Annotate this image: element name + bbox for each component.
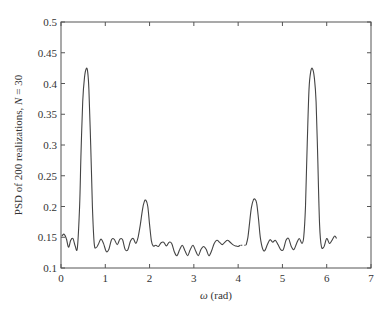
x-tick-label: 3 [191, 272, 197, 284]
x-axis-unit: (rad) [211, 289, 233, 302]
x-tick-label: 5 [280, 272, 286, 284]
x-axis-label: ω (rad) [200, 289, 232, 302]
y-tick-label: 0.3 [43, 139, 57, 151]
y-tick-label: 0.25 [38, 170, 58, 182]
x-tick-label: 1 [103, 272, 109, 284]
x-tick-label: 4 [235, 272, 241, 284]
y-tick-label: 0.15 [38, 231, 58, 243]
x-tick-label: 6 [324, 272, 330, 284]
x-tick-label: 2 [147, 272, 153, 284]
y-axis-label-prefix: PSD of 200 realizations, [12, 105, 24, 215]
x-tick-label: 0 [58, 272, 64, 284]
y-tick-label: 0.4 [43, 78, 57, 90]
psd-chart: 01234567 0.10.150.20.250.30.350.40.450.5… [0, 0, 391, 312]
chart-background [0, 0, 391, 312]
y-tick-label: 0.45 [38, 47, 58, 59]
y-tick-label: 0.1 [43, 262, 57, 274]
x-axis-symbol: ω [200, 289, 208, 301]
y-axis-label: PSD of 200 realizations, N = 30 [12, 74, 24, 215]
y-tick-label: 0.5 [43, 16, 57, 28]
y-axis-label-suffix: = 30 [12, 74, 24, 97]
y-tick-label: 0.35 [38, 108, 58, 120]
y-tick-label: 0.2 [43, 201, 57, 213]
x-tick-label: 7 [368, 272, 374, 284]
